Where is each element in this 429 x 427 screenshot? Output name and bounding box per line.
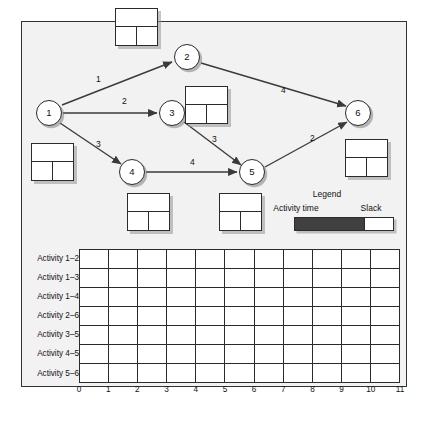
gantt-cell[interactable] — [196, 250, 225, 269]
gantt-cell[interactable] — [342, 250, 371, 269]
gantt-cell[interactable] — [167, 345, 196, 364]
box-bottom-left-cell[interactable] — [186, 105, 207, 123]
box-bottom-left-cell[interactable] — [32, 162, 53, 180]
gantt-cell[interactable] — [109, 345, 138, 364]
gantt-cell[interactable] — [371, 307, 400, 326]
box-bottom-right-cell[interactable] — [149, 212, 170, 230]
box-bottom-right-cell[interactable] — [241, 212, 262, 230]
gantt-cell[interactable] — [342, 345, 371, 364]
gantt-cell[interactable] — [284, 269, 313, 288]
gantt-cell[interactable] — [225, 269, 254, 288]
gantt-cell[interactable] — [109, 326, 138, 345]
activity-box-node-2[interactable] — [115, 8, 158, 46]
gantt-cell[interactable] — [284, 250, 313, 269]
gantt-cell[interactable] — [313, 288, 342, 307]
gantt-cell[interactable] — [342, 364, 371, 383]
gantt-cell[interactable] — [109, 364, 138, 383]
network-node-4[interactable]: 4 — [119, 159, 145, 185]
gantt-cell[interactable] — [371, 345, 400, 364]
gantt-cell[interactable] — [313, 307, 342, 326]
gantt-cell[interactable] — [342, 307, 371, 326]
gantt-cell[interactable] — [255, 326, 284, 345]
gantt-cell[interactable] — [138, 269, 167, 288]
activity-box-node-1[interactable] — [31, 143, 74, 181]
gantt-cell[interactable] — [109, 250, 138, 269]
gantt-cell[interactable] — [284, 288, 313, 307]
activity-box-node-5[interactable] — [219, 193, 262, 231]
gantt-cell[interactable] — [255, 307, 284, 326]
gantt-cell[interactable] — [313, 345, 342, 364]
box-bottom-left-cell[interactable] — [116, 27, 137, 45]
gantt-cell[interactable] — [80, 288, 109, 307]
gantt-cell[interactable] — [167, 269, 196, 288]
gantt-cell[interactable] — [371, 364, 400, 383]
gantt-cell[interactable] — [80, 250, 109, 269]
gantt-cell[interactable] — [138, 364, 167, 383]
gantt-cell[interactable] — [342, 288, 371, 307]
box-bottom-left-cell[interactable] — [346, 158, 367, 176]
gantt-cell[interactable] — [167, 250, 196, 269]
gantt-cell[interactable] — [284, 345, 313, 364]
gantt-cell[interactable] — [80, 364, 109, 383]
gantt-cell[interactable] — [371, 250, 400, 269]
gantt-cell[interactable] — [167, 326, 196, 345]
box-bottom-right-cell[interactable] — [207, 105, 228, 123]
box-top-cell[interactable] — [186, 87, 227, 105]
gantt-cell[interactable] — [225, 250, 254, 269]
network-node-6[interactable]: 6 — [345, 100, 371, 126]
activity-box-node-6[interactable] — [345, 139, 388, 177]
network-node-5[interactable]: 5 — [239, 159, 265, 185]
gantt-cell[interactable] — [225, 345, 254, 364]
gantt-cell[interactable] — [167, 307, 196, 326]
box-top-cell[interactable] — [128, 194, 169, 212]
gantt-cell[interactable] — [196, 269, 225, 288]
box-top-cell[interactable] — [346, 140, 387, 158]
gantt-cell[interactable] — [138, 307, 167, 326]
box-bottom-right-cell[interactable] — [53, 162, 74, 180]
gantt-cell[interactable] — [196, 364, 225, 383]
box-bottom-right-cell[interactable] — [367, 158, 388, 176]
gantt-cell[interactable] — [371, 269, 400, 288]
gantt-cell[interactable] — [255, 345, 284, 364]
gantt-cell[interactable] — [196, 345, 225, 364]
gantt-cell[interactable] — [109, 307, 138, 326]
network-node-1[interactable]: 1 — [36, 100, 62, 126]
gantt-cell[interactable] — [313, 269, 342, 288]
box-bottom-right-cell[interactable] — [137, 27, 158, 45]
gantt-grid[interactable] — [79, 249, 400, 383]
gantt-cell[interactable] — [138, 326, 167, 345]
gantt-cell[interactable] — [284, 307, 313, 326]
gantt-cell[interactable] — [138, 250, 167, 269]
gantt-cell[interactable] — [138, 345, 167, 364]
gantt-cell[interactable] — [80, 307, 109, 326]
gantt-cell[interactable] — [342, 326, 371, 345]
box-top-cell[interactable] — [220, 194, 261, 212]
box-top-cell[interactable] — [116, 9, 157, 27]
gantt-cell[interactable] — [255, 269, 284, 288]
gantt-cell[interactable] — [225, 307, 254, 326]
network-node-3[interactable]: 3 — [159, 100, 185, 126]
gantt-cell[interactable] — [167, 288, 196, 307]
gantt-cell[interactable] — [342, 269, 371, 288]
gantt-cell[interactable] — [80, 345, 109, 364]
gantt-cell[interactable] — [255, 288, 284, 307]
activity-box-node-3[interactable] — [185, 86, 228, 124]
gantt-cell[interactable] — [196, 326, 225, 345]
activity-box-node-4[interactable] — [127, 193, 170, 231]
gantt-cell[interactable] — [313, 326, 342, 345]
gantt-cell[interactable] — [167, 364, 196, 383]
gantt-cell[interactable] — [80, 326, 109, 345]
box-bottom-left-cell[interactable] — [128, 212, 149, 230]
gantt-cell[interactable] — [109, 269, 138, 288]
gantt-cell[interactable] — [196, 288, 225, 307]
gantt-cell[interactable] — [196, 307, 225, 326]
network-node-2[interactable]: 2 — [174, 44, 200, 70]
gantt-cell[interactable] — [109, 288, 138, 307]
gantt-cell[interactable] — [371, 326, 400, 345]
gantt-cell[interactable] — [138, 288, 167, 307]
gantt-cell[interactable] — [255, 250, 284, 269]
box-bottom-left-cell[interactable] — [220, 212, 241, 230]
gantt-cell[interactable] — [371, 288, 400, 307]
gantt-cell[interactable] — [284, 364, 313, 383]
gantt-cell[interactable] — [225, 326, 254, 345]
